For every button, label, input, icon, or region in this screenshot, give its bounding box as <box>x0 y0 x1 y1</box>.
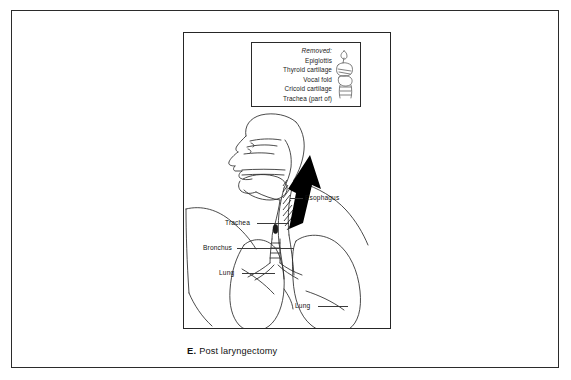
legend-item-thyroid-cartilage: Thyroid cartilage <box>252 65 332 75</box>
figure-caption: E.Post laryngectomy <box>187 345 277 356</box>
label-lung-left: Lung <box>219 269 234 276</box>
legend-list: Removed: Epiglottis Thyroid cartilage Vo… <box>252 46 335 104</box>
leader-line-lung-left <box>242 273 275 274</box>
label-trachea: Trachea <box>225 219 250 226</box>
leader-line-lung-right <box>318 306 348 307</box>
legend-item-epiglottis: Epiglottis <box>252 56 332 66</box>
legend-title: Removed: <box>252 46 332 56</box>
caption-letter: E. <box>187 345 196 356</box>
page-border: Removed: Epiglottis Thyroid cartilage Vo… <box>11 10 559 368</box>
legend-item-vocal-fold: Vocal fold <box>252 75 332 85</box>
label-lung-right: Lung <box>295 302 310 309</box>
larynx-cartilage-sketch <box>333 47 357 103</box>
removal-arrow <box>288 155 321 229</box>
legend-item-cricoid-cartilage: Cricoid cartilage <box>252 84 332 94</box>
legend-item-trachea: Trachea (part of) <box>252 94 332 104</box>
removed-structures-legend: Removed: Epiglottis Thyroid cartilage Vo… <box>251 42 361 107</box>
leader-line-bronchus <box>237 248 294 249</box>
tracheostoma <box>273 224 278 233</box>
leader-line-trachea <box>257 223 289 224</box>
leader-line-esophagus <box>290 198 303 199</box>
label-bronchus: Bronchus <box>203 244 232 251</box>
label-esophagus: Esophagus <box>305 194 339 201</box>
caption-text: Post laryngectomy <box>199 346 277 356</box>
figure-frame: Removed: Epiglottis Thyroid cartilage Vo… <box>183 32 391 329</box>
